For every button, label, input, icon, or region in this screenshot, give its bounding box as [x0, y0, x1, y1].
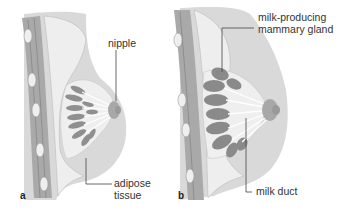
panel-a-non-lactating: nipple adipose tissue a [0, 0, 178, 212]
label-adipose-line1: adipose [114, 178, 151, 189]
label-gland-line2: mammary gland [258, 24, 333, 35]
label-adipose-line2: tissue [114, 190, 141, 201]
label-nipple: nipple [108, 38, 136, 49]
label-gland-line1: milk-producing [258, 12, 326, 23]
breast-anatomy-illustration-a [0, 0, 178, 212]
panel-b-lactating: milk-producing mammary gland milk duct b [170, 0, 356, 212]
label-milk-duct: milk duct [256, 186, 297, 197]
panel-letter-b: b [178, 190, 184, 201]
panel-letter-a: a [20, 190, 26, 201]
